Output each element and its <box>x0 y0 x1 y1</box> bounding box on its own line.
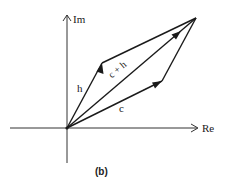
vector-sum <box>67 18 196 128</box>
origin-point <box>65 126 68 129</box>
real-axis-label: Re <box>202 123 214 134</box>
vector-h-label: h <box>77 83 83 94</box>
imaginary-axis <box>63 15 71 163</box>
vector-c-translated <box>102 18 196 63</box>
real-axis <box>10 124 198 132</box>
figure-caption: (b) <box>95 167 108 177</box>
diagram-graphics <box>0 0 226 187</box>
imaginary-axis-label: Im <box>73 14 85 25</box>
vector-diagram: Im Re h c c + h (b) <box>0 0 226 187</box>
vector-h-translated <box>162 18 196 81</box>
vector-c-label: c <box>119 103 124 114</box>
